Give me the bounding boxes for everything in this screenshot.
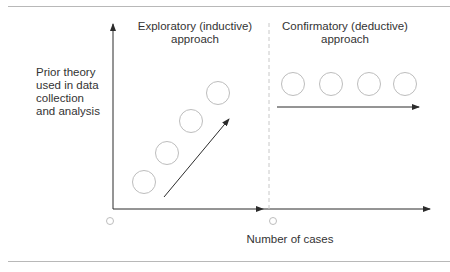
- confirmatory-cases: [282, 73, 417, 96]
- bottom-rule: [8, 261, 450, 262]
- case-circle: [358, 73, 381, 96]
- case-circle: [180, 110, 203, 133]
- case-circle: [320, 73, 343, 96]
- origin-marker-confirmatory: [270, 218, 277, 225]
- case-circle: [394, 73, 417, 96]
- case-circle: [282, 73, 305, 96]
- case-circle: [156, 142, 179, 165]
- approach-diagram: [0, 0, 450, 272]
- case-circle: [207, 82, 230, 105]
- case-circle: [133, 171, 156, 194]
- origin-marker-exploratory: [107, 218, 114, 225]
